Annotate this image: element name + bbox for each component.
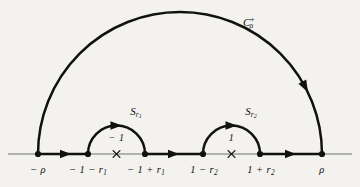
indent-arc-label-1: Sr2 — [245, 106, 256, 119]
axis-label-0: − ρ — [30, 165, 46, 176]
pole-label-0: − 1 — [108, 133, 124, 143]
contour-diagram-svg — [0, 0, 360, 187]
axis-label-4: 1 + r2 — [247, 165, 274, 177]
outer-semicircle-arc — [38, 12, 322, 154]
outer-arc-direction-arrow — [298, 80, 311, 95]
axis-label-2: − 1 + r1 — [127, 165, 165, 177]
pole-label-1: 1 — [229, 133, 235, 143]
axis-label-3: 1 − r2 — [190, 165, 217, 177]
indent-arc-label-0: Sr1 — [130, 106, 141, 119]
outer-arc-label: C+ρ — [243, 16, 253, 29]
axis-label-5: ρ — [319, 165, 324, 176]
axis-label-1: − 1 − r1 — [69, 165, 107, 177]
contour-diagram-canvas: − ρ− 1 − r1− 1 + r11 − r21 + r2ρ− 11Sr1S… — [0, 0, 360, 187]
